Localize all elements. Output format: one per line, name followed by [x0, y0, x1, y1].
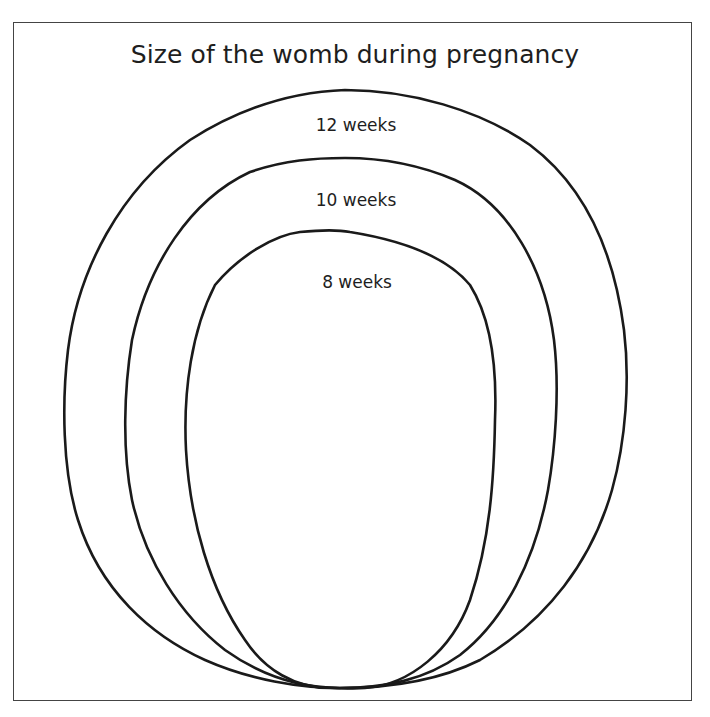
- womb-outline-12-weeks: [64, 90, 626, 688]
- label-8-weeks: 8 weeks: [322, 272, 392, 292]
- womb-size-diagram: 12 weeks 10 weeks 8 weeks: [0, 0, 710, 717]
- label-12-weeks: 12 weeks: [316, 115, 397, 135]
- womb-outline-8-weeks: [185, 230, 495, 688]
- label-10-weeks: 10 weeks: [316, 190, 397, 210]
- womb-outline-10-weeks: [125, 158, 556, 688]
